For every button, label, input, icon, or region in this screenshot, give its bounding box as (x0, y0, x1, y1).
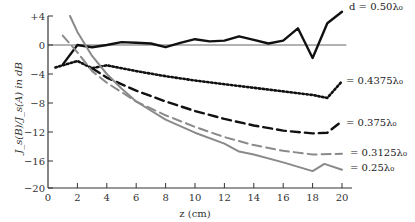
x-tick-label: 16 (277, 192, 290, 203)
y-tick-label: −4 (30, 69, 45, 80)
series-label-0: d = 0.50λ₀ (349, 1, 403, 12)
x-tick-label: 14 (247, 192, 260, 203)
x-tick-label: 10 (189, 192, 202, 203)
series-label-1: = 0.4375λ₀ (346, 75, 403, 86)
series-labels: d = 0.50λ₀= 0.4375λ₀= 0.375λ₀= 0.3125λ₀=… (346, 1, 407, 173)
series-line-3 (63, 36, 342, 155)
x-tick-label: 0 (45, 192, 51, 203)
series-line-0 (63, 12, 342, 65)
y-tick-label: 0 (39, 40, 45, 51)
x-tick-label: 6 (133, 192, 139, 203)
x-tick-label: 18 (306, 192, 319, 203)
y-tick-label: −20 (24, 183, 45, 194)
series-group (55, 12, 342, 171)
x-tick-label: 12 (218, 192, 231, 203)
y-tick-label: +4 (30, 11, 45, 22)
y-tick-label: −12 (24, 127, 45, 138)
x-tick-label: 2 (74, 192, 80, 203)
x-tick-label: 8 (162, 192, 168, 203)
y-tick-label: −16 (24, 156, 45, 167)
y-tick-label: −8 (30, 98, 45, 109)
series-line-2 (92, 68, 342, 133)
x-axis-title: z (cm) (179, 208, 210, 219)
line-chart: +40−4−8−12−16−2002468101214161820z (cm)J… (0, 0, 415, 222)
series-line-1 (55, 61, 342, 98)
series-label-4: = 0.25λ₀ (350, 162, 394, 173)
y-axis-title: J_s(B)/J_s(A) in dB (13, 62, 25, 156)
series-label-2: = 0.375λ₀ (346, 117, 397, 128)
x-tick-label: 20 (336, 192, 349, 203)
series-label-3: = 0.3125λ₀ (350, 147, 407, 158)
x-tick-label: 4 (104, 192, 110, 203)
